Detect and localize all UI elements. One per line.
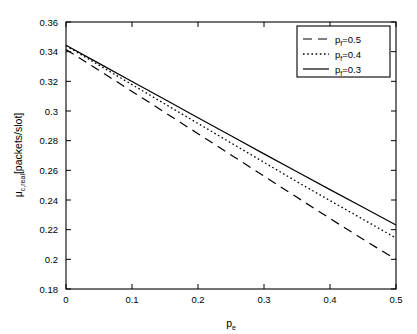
y-tick-label: 0.36 (40, 17, 59, 28)
y-tick-label: 0.34 (40, 46, 59, 57)
series-line-1 (66, 49, 396, 259)
x-tick-label: 0.4 (323, 294, 336, 305)
x-tick-label: 0.5 (389, 294, 402, 305)
y-tick-label: 0.18 (40, 284, 59, 295)
y-tick-label: 0.2 (45, 254, 58, 265)
y-tick-label: 0.22 (40, 224, 59, 235)
figure-canvas: 0.180.20.220.240.260.280.30.320.340.36 0… (0, 0, 417, 334)
y-axis-title: μc,real[packets/slot] (12, 113, 26, 198)
x-tick-label: 0.2 (191, 294, 204, 305)
x-tick-label: 0.1 (125, 294, 138, 305)
y-tick-label: 0.3 (45, 106, 58, 117)
x-axis-title: pe (226, 317, 236, 331)
y-tick-label: 0.32 (40, 76, 59, 87)
x-tick-label: 0.3 (257, 294, 270, 305)
line-chart: 0.180.20.220.240.260.280.30.320.340.36 0… (0, 0, 417, 334)
x-axis-tick-labels: 00.10.20.30.40.5 (63, 294, 402, 305)
y-tick-label: 0.26 (40, 165, 59, 176)
legend: pf=0.5pf=0.4pf=0.3 (297, 26, 390, 77)
y-axis-tick-labels: 0.180.20.220.240.260.280.30.320.340.36 (40, 17, 59, 295)
y-tick-label: 0.24 (40, 195, 59, 206)
x-tick-label: 0 (63, 294, 68, 305)
y-tick-label: 0.28 (40, 135, 59, 146)
